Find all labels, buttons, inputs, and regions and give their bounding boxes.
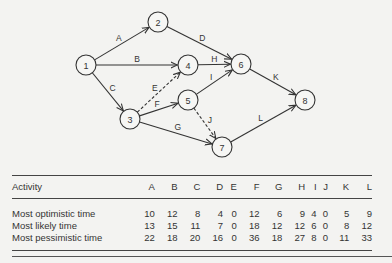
edge-k: K — [250, 69, 296, 95]
spacer-row — [12, 199, 372, 209]
row-label: Most optimistic time — [12, 208, 132, 220]
table-cell: 5 — [328, 208, 349, 220]
table-cell: 12 — [282, 220, 305, 232]
arrow-icon — [194, 108, 216, 138]
table-cell: 0 — [317, 220, 328, 232]
edge-label: I — [210, 72, 212, 82]
table-cell: 8 — [328, 220, 349, 232]
node-5: 5 — [178, 90, 198, 110]
node-label: 2 — [155, 18, 160, 28]
arrow-icon — [231, 105, 296, 142]
table-cell: 11 — [328, 232, 349, 251]
edge-label: E — [152, 83, 158, 93]
table-body: Most optimistic time101284012694059Most … — [12, 199, 372, 251]
table-cell: 9 — [282, 208, 305, 220]
table-cell: 0 — [317, 232, 328, 251]
table-cell: 6 — [260, 208, 283, 220]
table-cell: 15 — [155, 220, 178, 232]
edge-i: I — [196, 70, 232, 94]
edge-label: A — [116, 33, 122, 43]
edge-label: K — [273, 72, 279, 82]
edge-label: H — [211, 54, 217, 64]
table-cell: 0 — [223, 232, 237, 251]
edge-c: C — [92, 73, 123, 111]
edge-label: G — [174, 122, 181, 132]
table-cell: 20 — [178, 232, 201, 251]
column-header: I — [305, 176, 316, 199]
bottom-rule — [12, 256, 392, 257]
node-3: 3 — [120, 109, 140, 129]
edge-d: D — [167, 27, 232, 60]
node-8: 8 — [295, 90, 315, 110]
column-header: K — [328, 176, 349, 199]
edge-a: A — [95, 27, 149, 59]
column-header: A — [132, 176, 155, 199]
table-cell: 11 — [178, 220, 201, 232]
table-cell: 33 — [349, 232, 372, 251]
arrow-icon — [196, 70, 232, 94]
table-cell: 16 — [200, 232, 223, 251]
table-cell: 0 — [317, 208, 328, 220]
edge-g: G — [140, 122, 212, 144]
table-cell: 4 — [305, 208, 316, 220]
edge-label: C — [110, 83, 116, 93]
column-header: B — [155, 176, 178, 199]
arrow-icon — [92, 73, 123, 111]
node-6: 6 — [231, 54, 251, 74]
column-header: L — [349, 176, 372, 199]
table-cell: 4 — [200, 208, 223, 220]
table-cell: 27 — [282, 232, 305, 251]
table-cell: 36 — [237, 232, 260, 251]
table-cell: 18 — [155, 232, 178, 251]
edge-label: D — [199, 33, 205, 43]
table-cell: 12 — [349, 220, 372, 232]
table-cell: 10 — [132, 208, 155, 220]
table-row: Most likely time1315117018121260812 — [12, 220, 372, 232]
row-label: Most likely time — [12, 220, 132, 232]
node-2: 2 — [148, 12, 168, 32]
table-cell: 22 — [132, 232, 155, 251]
table-cell: 6 — [305, 220, 316, 232]
column-header: C — [178, 176, 201, 199]
arrow-icon — [167, 27, 232, 60]
edge-label: J — [208, 115, 212, 125]
table-cell: 8 — [305, 232, 316, 251]
edge-l: L — [231, 105, 296, 142]
edge-h: H — [198, 54, 231, 65]
edge-label: B — [134, 54, 140, 64]
activity-header: Activity — [12, 176, 132, 199]
column-header: H — [282, 176, 305, 199]
table-header-row: Activity A B C D E F G H I J K L — [12, 176, 372, 199]
column-header: F — [237, 176, 260, 199]
node-7: 7 — [212, 137, 232, 157]
table-cell: 12 — [237, 208, 260, 220]
edge-j: J — [194, 108, 216, 138]
table-row: Most optimistic time101284012694059 — [12, 208, 372, 220]
arrow-icon — [198, 64, 231, 65]
activity-network-diagram: ABCDEFGHIJKL 12345678 — [0, 0, 392, 170]
table-cell: 8 — [178, 208, 201, 220]
node-4: 4 — [178, 55, 198, 75]
row-label: Most pessimistic time — [12, 232, 132, 251]
node-label: 8 — [302, 96, 307, 106]
column-header: J — [317, 176, 328, 199]
activity-time-table: Activity A B C D E F G H I J K L Most op… — [12, 175, 372, 251]
node-label: 4 — [185, 61, 190, 71]
node-label: 5 — [185, 96, 190, 106]
table-cell: 18 — [237, 220, 260, 232]
table-row: Most pessimistic time2218201603618278011… — [12, 232, 372, 251]
node-label: 6 — [238, 60, 243, 70]
node-1: 1 — [76, 55, 96, 75]
table-cell: 18 — [260, 232, 283, 251]
arrow-icon — [95, 27, 149, 59]
table-cell: 0 — [223, 220, 237, 232]
node-label: 7 — [219, 143, 224, 153]
table-cell: 12 — [155, 208, 178, 220]
table-cell: 0 — [223, 208, 237, 220]
edge-label: F — [155, 99, 160, 109]
table-cell: 7 — [200, 220, 223, 232]
edge-label: L — [258, 113, 263, 123]
edge-f: F — [140, 99, 179, 116]
table-cell: 9 — [349, 208, 372, 220]
column-header: G — [260, 176, 283, 199]
